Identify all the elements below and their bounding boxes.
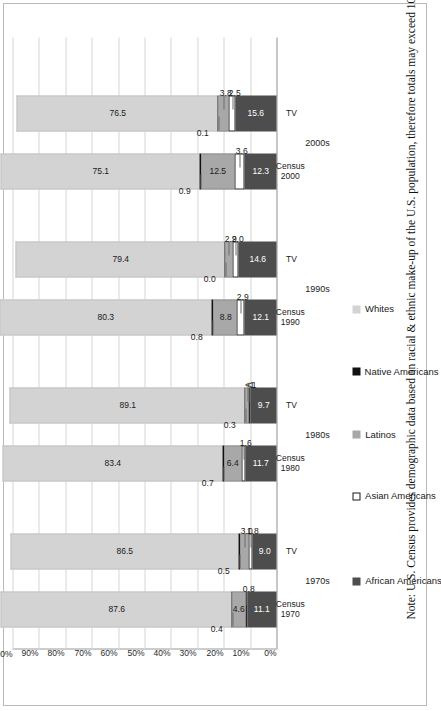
callout-leader-line [247,387,248,401]
square-swatch-icon [352,430,360,438]
stacked-bar[interactable]: 89.19.7 [9,387,276,423]
legend-item[interactable]: Latinos [352,419,395,450]
square-swatch-icon [352,305,360,313]
legend-item-label: Whites [364,304,393,314]
bar-segment[interactable]: 80.3 [0,299,211,335]
category-label-line1: Census [260,307,320,317]
category-axis-label: TV [261,400,321,410]
callout-leader-line [240,299,241,313]
square-swatch-icon [352,367,360,375]
category-label-line1: Census [260,599,320,609]
bar-segment[interactable]: 83.4 [2,445,222,481]
figure-note: Note: U.S. Census provides demographic d… [404,0,416,619]
callout-leader-line [212,320,213,334]
callout-leader-line [239,153,240,167]
bar-segment[interactable]: 12.5 [201,153,234,189]
segment-callout-label: 0.8 [234,585,262,594]
segment-value-label: 80.3 [97,313,114,322]
category-label-line1: TV [261,546,321,556]
category-label-line2: 1980 [260,463,320,473]
category-label-line1: TV [261,254,321,264]
segment-callout-label: 0.0 [195,275,223,284]
category-axis-label: TV [261,546,321,556]
segment-callout-label: 2.9 [217,235,245,244]
bar-segment[interactable]: 75.1 [0,153,198,189]
group-axis-label: 2000s [272,137,362,147]
stacked-bar[interactable]: 76.515.6 [16,95,276,131]
legend-item[interactable]: Asian Americans [352,461,435,532]
callout-leader-line [225,262,226,276]
segment-callout-label: 3.0 [232,527,260,536]
callout-leader-line [243,445,244,459]
segment-callout-label: 0.7 [193,479,221,488]
category-label-line1: Census [260,453,320,463]
bar-segment[interactable]: 86.5 [10,533,238,569]
stacked-bar[interactable]: 80.38.812.1 [0,299,276,335]
bar-segment[interactable]: 6.4 [224,445,241,481]
category-axis-label: TV [261,254,321,264]
callout-leader-line [245,408,246,422]
bar-segment[interactable]: 87.6 [0,591,231,627]
segment-value-label: 4.6 [233,605,245,614]
category-axis-label: Census1990 [260,307,320,327]
segment-callout-label: 0.9 [170,187,198,196]
group-axis-label: 1980s [272,429,362,439]
callout-leader-line [246,591,247,605]
legend-item[interactable]: African Americans [352,542,441,619]
segment-value-label: 8.8 [219,313,231,322]
segment-value-label: 86.5 [116,547,133,556]
category-axis-label: Census1980 [260,453,320,473]
segment-value-label: 89.1 [119,401,136,410]
callout-leader-line [232,612,233,626]
category-label-line1: Census [260,161,320,171]
stacked-bar[interactable]: 79.414.6 [15,241,276,277]
stacked-bar[interactable]: 87.64.611.1 [0,591,276,627]
segment-value-label: 6.4 [227,459,239,468]
segment-value-label: 87.6 [108,605,125,614]
bar-segment[interactable]: 8.8 [213,299,236,335]
legend-item-label: Latinos [364,429,395,439]
category-label-line2: 1970 [260,609,320,619]
callout-leader-line [218,116,219,130]
segment-callout-label: 0.3 [215,421,243,430]
group-axis-label: 1970s [272,575,362,585]
bar-segment[interactable]: 4.6 [232,591,244,627]
callout-leader-line [223,466,224,480]
segment-callout-label: 3.8 [211,89,239,98]
legend-item[interactable]: Whites [352,294,393,323]
legend-item[interactable]: Native Americans [352,334,438,408]
segment-callout-label: 0.5 [209,567,237,576]
stacked-bar[interactable]: 83.46.411.7 [2,445,276,481]
legend-item-label: Native Americans [364,366,438,376]
legend-item-label: Asian Americans [364,491,435,501]
stacked-bar[interactable]: 86.59.0 [10,533,276,569]
segment-callout-label: 0.4 [202,625,230,634]
segment-callout-label: 1.6 [231,439,259,448]
legend-item-label: African Americans [364,576,441,586]
category-axis-label: TV [261,108,321,118]
segment-callout-label: <1 [235,381,263,390]
callout-leader-line [228,241,229,255]
bar-segment[interactable]: 76.5 [16,95,217,131]
stacked-bar[interactable]: 75.112.512.3 [0,153,276,189]
bar-segment[interactable]: 79.4 [15,241,224,277]
segment-callout-label: 2.9 [228,293,256,302]
plot-area: 0%10%20%30%40%50%60%70%80%90%100% 87.64.… [12,37,276,649]
segment-callout-label: 0.8 [182,333,210,342]
callout-leader-line [200,174,201,188]
group-axis-label: 1990s [272,283,362,293]
segment-value-label: 75.1 [92,167,109,176]
segment-value-label: 79.4 [111,255,128,264]
callout-leader-line [239,554,240,568]
segment-value-label: 83.4 [104,459,121,468]
bar-segment[interactable]: 89.1 [9,387,244,423]
chart-legend: African AmericansAsian AmericansLatinosN… [352,294,441,619]
callout-leader-line [223,95,224,109]
category-label-line1: TV [261,400,321,410]
callout-leader-line [244,533,245,547]
segment-value-label: 76.5 [109,109,126,118]
category-axis-label: Census2000 [260,161,320,181]
square-swatch-icon [352,577,360,585]
